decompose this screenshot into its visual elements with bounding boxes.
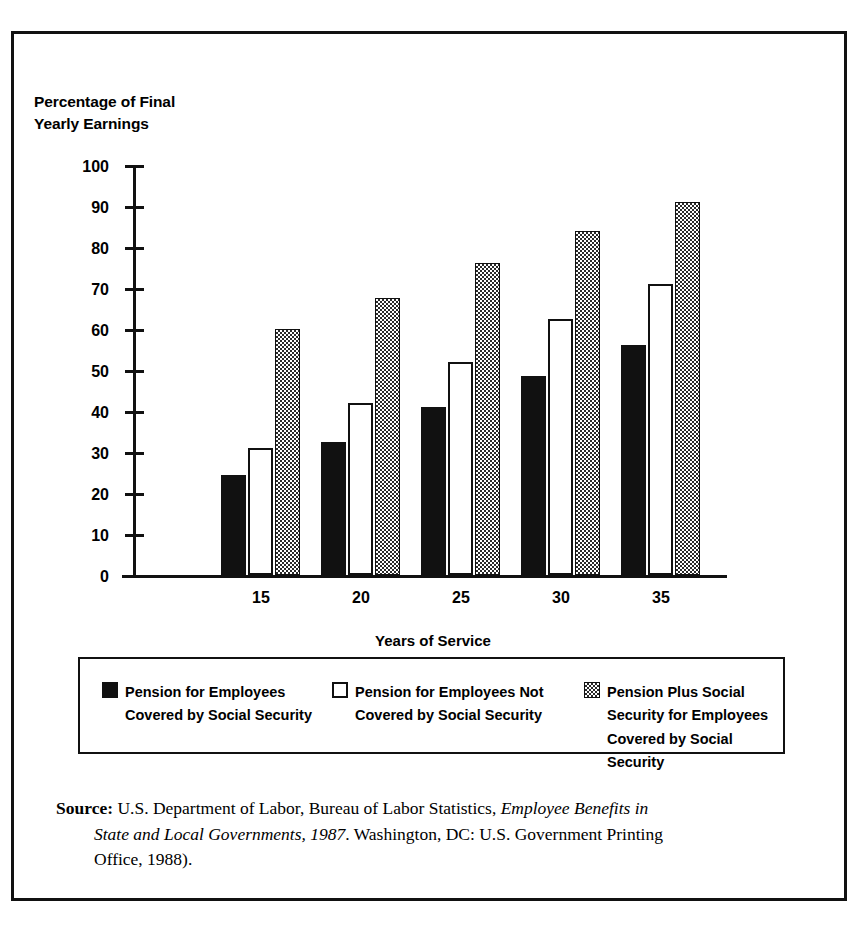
y-tick-100: 100: [125, 165, 144, 168]
y-tick-40: 40: [125, 411, 144, 414]
legend-item-pension-not-covered: Pension for Employees Not Covered by Soc…: [332, 681, 544, 728]
legend-swatch-open-white-icon: [332, 682, 348, 698]
y-tick-20: 20: [125, 493, 144, 496]
x-axis-line: [122, 575, 727, 578]
bar-series1-25: [448, 362, 473, 575]
legend-label: Pension for Employees Not Covered by Soc…: [355, 681, 544, 728]
bar-series0-15: [221, 475, 246, 575]
bar-series1-35: [648, 284, 673, 575]
y-tick-80: 80: [125, 247, 144, 250]
source-line2-italic: State and Local Governments, 1987: [94, 824, 345, 844]
bar-group-20: [321, 165, 400, 575]
legend-label: Pension for Employees Covered by Social …: [125, 681, 312, 728]
y-tick-label: 70: [91, 280, 109, 298]
x-axis-title: Years of Service: [133, 632, 733, 649]
bar-group-25: [421, 165, 500, 575]
source-prefix: Source:: [56, 798, 113, 818]
figure-frame: Percentage of Final Yearly Earnings 1009…: [11, 31, 847, 901]
bar-series2-35: [675, 202, 700, 575]
y-tick-70: 70: [125, 288, 144, 291]
y-tick-label: 0: [100, 567, 109, 585]
source-line1-plain: U.S. Department of Labor, Bureau of Labo…: [113, 798, 501, 818]
bar-group-15: [221, 165, 300, 575]
y-tick-label: 100: [82, 157, 109, 175]
y-tick-label: 90: [91, 198, 109, 216]
source-line1-italic: Employee Benefits in: [501, 798, 649, 818]
y-tick-10: 10: [125, 534, 144, 537]
legend-item-pension-plus-social-security: Pension Plus Social Security for Employe…: [584, 681, 783, 775]
bar-series0-25: [421, 407, 446, 575]
y-tick-label: 80: [91, 239, 109, 257]
x-tick-label-20: 20: [321, 589, 401, 607]
bar-series0-30: [521, 376, 546, 575]
y-tick-label: 50: [91, 362, 109, 380]
y-tick-label: 40: [91, 403, 109, 421]
y-tick-label: 10: [91, 526, 109, 544]
legend-swatch-checkered-gray-icon: [584, 682, 600, 698]
y-tick-60: 60: [125, 329, 144, 332]
bar-group-30: [521, 165, 600, 575]
x-tick-label-30: 30: [521, 589, 601, 607]
plot-area: 1009080706050403020100 1520253035: [133, 165, 733, 575]
bar-series0-35: [621, 345, 646, 575]
y-tick-90: 90: [125, 206, 144, 209]
x-tick-label-15: 15: [221, 589, 301, 607]
legend-item-pension-covered: Pension for Employees Covered by Social …: [102, 681, 312, 728]
y-tick-label: 60: [91, 321, 109, 339]
bar-series2-25: [475, 263, 500, 575]
bar-series1-30: [548, 319, 573, 575]
x-tick-label-25: 25: [421, 589, 501, 607]
source-line-2: State and Local Governments, 1987. Washi…: [56, 822, 798, 848]
bar-group-35: [621, 165, 700, 575]
y-tick-label: 30: [91, 444, 109, 462]
y-tick-30: 30: [125, 452, 144, 455]
y-axis-title: Percentage of Final Yearly Earnings: [34, 91, 175, 136]
source-line-3: Office, 1988).: [56, 847, 798, 873]
y-tick-50: 50: [125, 370, 144, 373]
source-line2-plain: . Washington, DC: U.S. Government Printi…: [345, 824, 663, 844]
x-tick-label-35: 35: [621, 589, 701, 607]
bar-series1-15: [248, 448, 273, 575]
bar-series1-20: [348, 403, 373, 575]
source-line-1: Source: U.S. Department of Labor, Bureau…: [56, 796, 798, 822]
bar-series0-20: [321, 442, 346, 575]
bar-series2-20: [375, 298, 400, 575]
source-citation: Source: U.S. Department of Labor, Bureau…: [56, 796, 798, 873]
y-tick-0: 0: [125, 575, 144, 578]
y-tick-label: 20: [91, 485, 109, 503]
bar-series2-30: [575, 231, 600, 575]
legend-swatch-solid-black-icon: [102, 682, 118, 698]
legend: Pension for Employees Covered by Social …: [78, 657, 785, 754]
bar-series2-15: [275, 329, 300, 575]
legend-label: Pension Plus Social Security for Employe…: [607, 681, 783, 775]
